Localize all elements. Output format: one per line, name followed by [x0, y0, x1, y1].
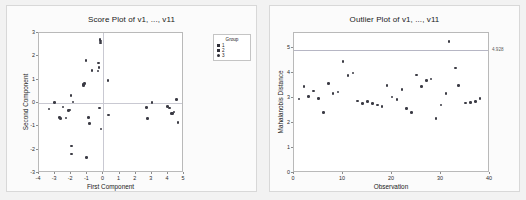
y-tick-mark	[291, 97, 293, 98]
x-tick-mark	[440, 172, 441, 174]
data-point	[62, 106, 65, 109]
score-plot-title: Score Plot of v1, ..., v11	[7, 15, 256, 24]
score-plot-xaxis-title: First Component	[38, 183, 183, 190]
data-point	[146, 117, 149, 120]
data-point	[98, 66, 101, 69]
x-tick-label: 0	[292, 175, 295, 181]
y-tick-label: -3	[26, 169, 35, 175]
data-point	[97, 62, 100, 65]
x-tick-label: 0	[101, 175, 104, 181]
x-tick-mark	[391, 172, 392, 174]
x-tick-mark	[342, 172, 343, 174]
y-tick-mark	[36, 149, 38, 150]
outlier-plot-frame	[293, 32, 489, 172]
data-point	[307, 95, 310, 98]
data-point	[298, 98, 301, 101]
y-tick-mark	[291, 147, 293, 148]
data-point	[65, 117, 68, 120]
x-tick-label: 40	[486, 175, 492, 181]
y-tick-mark	[291, 172, 293, 173]
x-tick-mark	[102, 172, 103, 174]
outlier-plot-points-area	[294, 33, 488, 171]
x-tick-label: 5	[182, 175, 185, 181]
x-tick-mark	[167, 172, 168, 174]
data-point	[107, 79, 110, 82]
data-point	[48, 108, 51, 111]
score-plot-panel: Score Plot of v1, ..., v11 -4-3-2-101234…	[0, 0, 263, 200]
legend-title: Group	[217, 37, 247, 42]
data-point	[97, 70, 100, 73]
x-tick-mark	[86, 172, 87, 174]
data-point	[83, 82, 86, 85]
vertical-reference-line	[103, 33, 104, 171]
x-tick-label: 1	[117, 175, 120, 181]
data-point	[430, 78, 433, 81]
data-point	[386, 84, 389, 87]
outlier-threshold-line	[294, 50, 488, 51]
score-plot-frame	[38, 32, 183, 172]
x-tick-mark	[70, 172, 71, 174]
y-tick-label: 3	[26, 29, 35, 35]
data-point	[352, 72, 355, 75]
data-point	[396, 98, 399, 101]
y-tick-mark	[36, 172, 38, 173]
data-point	[440, 104, 443, 107]
data-point	[168, 107, 171, 110]
y-tick-mark	[36, 55, 38, 56]
data-point	[303, 85, 306, 88]
x-tick-label: 20	[388, 175, 394, 181]
data-point	[70, 94, 73, 97]
reference-line-label: 4.928	[492, 46, 504, 51]
legend-item-label: 3	[222, 53, 225, 58]
y-tick-label: 2	[26, 52, 35, 58]
x-tick-label: 4	[165, 175, 168, 181]
data-point	[381, 105, 384, 108]
score-plot-legend[interactable]: Group 1 2 3	[213, 34, 251, 61]
data-point	[356, 100, 359, 103]
data-point	[88, 122, 91, 125]
data-point	[371, 102, 374, 105]
x-tick-label: -3	[52, 175, 57, 181]
data-point	[337, 91, 340, 94]
y-tick-label: 0	[281, 169, 290, 175]
horizontal-reference-line	[39, 103, 182, 104]
data-point	[425, 79, 428, 82]
score-plot-canvas: Score Plot of v1, ..., v11 -4-3-2-101234…	[6, 5, 257, 192]
y-tick-label: 1	[281, 144, 290, 150]
data-point	[464, 102, 467, 105]
x-tick-label: 2	[133, 175, 136, 181]
y-tick-mark	[291, 47, 293, 48]
y-tick-mark	[36, 102, 38, 103]
data-point	[87, 116, 90, 119]
x-tick-mark	[38, 172, 39, 174]
y-tick-label: -2	[26, 146, 35, 152]
legend-symbol-circle-icon	[217, 54, 220, 57]
x-tick-label: -1	[84, 175, 89, 181]
legend-symbol-square-icon	[217, 49, 220, 52]
data-point	[177, 121, 180, 124]
data-point	[469, 101, 472, 104]
data-point	[410, 111, 413, 114]
x-tick-mark	[151, 172, 152, 174]
outlier-plot-canvas: Outlier Plot of v1, ..., v11 01020304001…	[269, 5, 520, 192]
data-point	[445, 92, 448, 95]
outlier-plot-title: Outlier Plot of v1, ..., v11	[270, 15, 519, 24]
data-point	[91, 69, 94, 72]
legend-item-3[interactable]: 3	[217, 53, 247, 58]
x-tick-label: 3	[149, 175, 152, 181]
data-point	[98, 107, 101, 110]
x-tick-label: 30	[437, 175, 443, 181]
x-tick-mark	[293, 172, 294, 174]
data-point	[391, 96, 394, 99]
y-tick-mark	[36, 32, 38, 33]
data-point	[366, 100, 369, 103]
data-point	[347, 74, 350, 77]
data-point	[361, 102, 364, 105]
data-point	[479, 97, 482, 100]
outlier-plot-yaxis-title: Mahalanobis Distance	[277, 71, 284, 134]
score-plot-points-area	[39, 33, 182, 171]
data-point	[435, 117, 438, 120]
data-point	[59, 117, 62, 120]
data-point	[53, 101, 56, 104]
data-point	[327, 82, 330, 85]
